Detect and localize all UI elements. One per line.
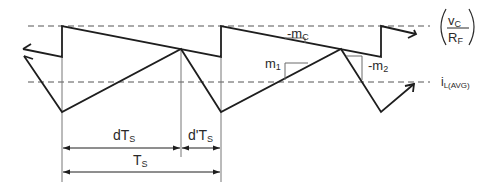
label-control-fraction: vC RF [441, 9, 474, 46]
label-period: TS [133, 152, 148, 169]
compensation-ramp-start-tick [23, 44, 31, 49]
inductor-current-waveform [24, 49, 414, 112]
right-paren [469, 9, 474, 45]
svg-text:vC: vC [448, 13, 462, 29]
compensation-ramp-waveform [23, 26, 416, 57]
current-mode-waveform-diagram: -mC m1 -m2 dTS d'TS TS vC RF iL(AVG) [0, 0, 493, 191]
label-slope-mc: -mC [287, 26, 309, 42]
svg-text:RF: RF [448, 30, 463, 46]
label-avg-current: iL(AVG) [441, 75, 470, 90]
label-off-time: d'TS [188, 127, 213, 144]
left-paren [441, 9, 446, 45]
label-slope-m2: -m2 [368, 58, 388, 74]
label-on-time: dTS [113, 127, 135, 144]
label-slope-m1: m1 [265, 56, 281, 72]
